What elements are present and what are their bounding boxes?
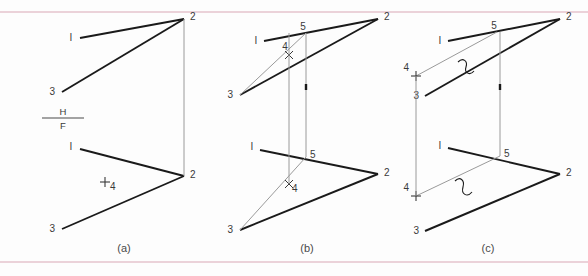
label-3-front-c: 3 (413, 225, 419, 236)
label-1-front-c: I (439, 140, 442, 151)
label-2-top-b: 2 (384, 11, 390, 22)
label-4-front-b: 4 (292, 183, 298, 194)
label-5-top-b: 5 (300, 21, 306, 32)
label-5-front-b: 5 (310, 149, 316, 160)
caption-c: (c) (482, 242, 495, 254)
label-2-top-a: 2 (190, 11, 196, 22)
label-4-front-a: 4 (110, 181, 116, 192)
label-2-front-a: 2 (190, 169, 196, 180)
descriptive-geometry-figure: I 2 3 H F I 2 3 4 (0, 0, 588, 276)
label-1-front-a: I (70, 141, 73, 152)
label-3-top-b: 3 (227, 89, 233, 100)
fold-label-h-a: H (60, 106, 67, 117)
label-3-front-a: 3 (49, 223, 55, 234)
label-1-top-b: I (255, 35, 258, 46)
label-3-top-a: 3 (49, 86, 55, 97)
label-2-top-c: 2 (566, 11, 572, 22)
caption-a: (a) (117, 242, 130, 254)
label-5-front-c: 5 (504, 148, 510, 159)
label-1-top-c: I (439, 35, 442, 46)
label-1-top-a: I (70, 32, 73, 43)
label-1-front-b: I (251, 141, 254, 152)
label-4-front-c: 4 (403, 182, 409, 193)
caption-b: (b) (300, 242, 313, 254)
label-4-top-c: 4 (403, 62, 409, 73)
label-2-front-c: 2 (566, 167, 572, 178)
label-4-top-b: 4 (282, 41, 288, 52)
label-2-front-b: 2 (384, 167, 390, 178)
figure-canvas: I 2 3 H F I 2 3 4 (0, 0, 588, 276)
fold-label-f-a: F (60, 120, 66, 131)
label-3-front-b: 3 (227, 224, 233, 235)
label-5-top-c: 5 (491, 20, 497, 31)
